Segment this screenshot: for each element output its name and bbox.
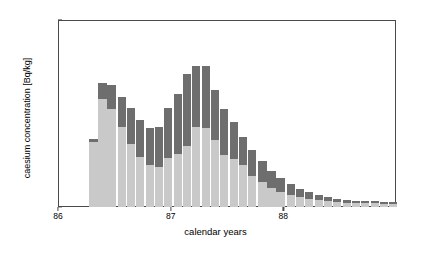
x-axis-tick-label: 87 bbox=[166, 211, 175, 221]
bar bbox=[315, 195, 323, 207]
bar bbox=[343, 200, 351, 207]
bar bbox=[305, 192, 313, 207]
bar bbox=[98, 83, 106, 207]
bar bbox=[164, 108, 172, 207]
bar-segment-lower bbox=[371, 203, 379, 207]
bar-segment-lower bbox=[389, 204, 397, 207]
bar-segment-upper bbox=[107, 85, 115, 109]
bar-segment-upper bbox=[98, 83, 106, 99]
bar-segment-upper bbox=[118, 97, 126, 127]
bar bbox=[230, 122, 238, 207]
bar-segment-lower bbox=[118, 127, 126, 207]
bar bbox=[136, 120, 144, 207]
bar bbox=[183, 74, 191, 207]
bar-segment-lower bbox=[89, 142, 97, 207]
bar-segment-upper bbox=[202, 66, 210, 128]
bar-segment-upper bbox=[155, 127, 163, 167]
bar-segment-lower bbox=[164, 158, 172, 207]
bar bbox=[276, 178, 284, 207]
bar-segment-upper bbox=[276, 178, 284, 191]
bar bbox=[324, 197, 332, 207]
bar-series-group bbox=[0, 0, 431, 255]
bar-segment-upper bbox=[183, 74, 191, 145]
bar-segment-lower bbox=[155, 167, 163, 207]
bar-segment-upper bbox=[239, 137, 247, 165]
bar-segment-upper bbox=[230, 122, 238, 159]
bar-segment-upper bbox=[146, 128, 154, 165]
bar-segment-lower bbox=[239, 165, 247, 207]
bar bbox=[202, 66, 210, 207]
bar-segment-lower bbox=[296, 197, 304, 207]
bar-segment-lower bbox=[343, 203, 351, 207]
bar-segment-upper bbox=[211, 90, 219, 141]
bar bbox=[296, 189, 304, 207]
bar-segment-lower bbox=[248, 176, 256, 207]
bar-segment-upper bbox=[258, 161, 266, 182]
x-axis-title: calendar years bbox=[0, 226, 431, 237]
x-axis-tick-mark bbox=[57, 207, 58, 211]
bar bbox=[220, 109, 228, 207]
bar bbox=[380, 202, 388, 207]
x-axis-tick-label: 86 bbox=[53, 211, 62, 221]
bar bbox=[248, 150, 256, 207]
bar bbox=[258, 161, 266, 207]
caesium-concentration-chart: caesium concentration [Bq/kg] 0102030405… bbox=[0, 0, 431, 255]
bar-segment-lower bbox=[305, 199, 313, 207]
bar bbox=[127, 108, 135, 207]
bar-segment-upper bbox=[305, 192, 313, 199]
bar bbox=[89, 139, 97, 207]
bar-segment-lower bbox=[258, 182, 266, 207]
bar-segment-upper bbox=[220, 109, 228, 155]
bar bbox=[211, 90, 219, 207]
bar-segment-lower bbox=[230, 159, 238, 207]
bar-segment-upper bbox=[192, 66, 200, 127]
bar-segment-lower bbox=[202, 128, 210, 207]
bar-segment-lower bbox=[324, 201, 332, 207]
x-axis-tick-mark bbox=[283, 207, 284, 211]
bar-segment-lower bbox=[127, 144, 135, 207]
bar bbox=[389, 202, 397, 207]
bar-segment-upper bbox=[164, 108, 172, 158]
bar-segment-lower bbox=[361, 203, 369, 207]
bar-segment-lower bbox=[352, 203, 360, 207]
bar bbox=[146, 128, 154, 207]
bar-segment-lower bbox=[276, 192, 284, 207]
bar-segment-lower bbox=[146, 165, 154, 207]
x-axis-tick-label: 88 bbox=[279, 211, 288, 221]
x-axis-tick-mark bbox=[170, 207, 171, 211]
bar-segment-lower bbox=[192, 127, 200, 207]
bar-segment-upper bbox=[174, 94, 182, 154]
bar-segment-upper bbox=[267, 171, 275, 188]
bar-segment-lower bbox=[380, 204, 388, 207]
bar bbox=[155, 127, 163, 207]
bar-segment-lower bbox=[98, 99, 106, 207]
bar-segment-upper bbox=[127, 108, 135, 144]
bar-segment-upper bbox=[248, 150, 256, 175]
bar-segment-lower bbox=[211, 140, 219, 207]
bar-segment-upper bbox=[287, 184, 295, 195]
bar bbox=[333, 199, 341, 207]
bar-segment-upper bbox=[136, 120, 144, 157]
bar-segment-lower bbox=[107, 109, 115, 207]
bar bbox=[174, 94, 182, 207]
bar-segment-lower bbox=[267, 188, 275, 207]
bar bbox=[361, 201, 369, 207]
bar bbox=[371, 201, 379, 207]
bar bbox=[287, 184, 295, 207]
bar-segment-lower bbox=[174, 154, 182, 207]
bar-segment-upper bbox=[296, 189, 304, 198]
bar-segment-lower bbox=[333, 202, 341, 207]
bar bbox=[192, 66, 200, 207]
bar bbox=[239, 137, 247, 207]
bar bbox=[107, 85, 115, 207]
bar-segment-lower bbox=[287, 195, 295, 207]
bar-segment-lower bbox=[315, 200, 323, 207]
bar bbox=[352, 201, 360, 207]
bar bbox=[118, 97, 126, 207]
bar-segment-lower bbox=[183, 146, 191, 207]
bar-segment-lower bbox=[220, 155, 228, 207]
bar-segment-lower bbox=[136, 157, 144, 207]
bar bbox=[267, 171, 275, 207]
